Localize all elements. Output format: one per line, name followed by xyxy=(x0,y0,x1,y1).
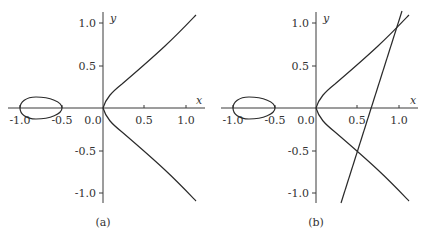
x-axis-label: x xyxy=(410,94,417,107)
x-tick-label: 0.5 xyxy=(135,114,153,127)
figure: -1.0 -0.5 0.0 0.5 1.0 1.0 0.5 -0.5 -1.0 … xyxy=(0,0,426,236)
cubic-branch-upper xyxy=(103,15,196,108)
x-axis-label: x xyxy=(196,94,203,107)
y-tick-label: 1.0 xyxy=(292,17,310,30)
panel-caption: (a) xyxy=(95,216,110,229)
y-tick-label: 0.5 xyxy=(292,60,310,73)
x-tick-label: 0.0 xyxy=(297,114,315,127)
y-axis-label: y xyxy=(322,12,330,25)
x-tick-label: -1.0 xyxy=(222,114,243,127)
cubic-branch-upper xyxy=(316,15,409,108)
y-axis-label: y xyxy=(109,12,117,25)
y-tick-label: 0.5 xyxy=(79,60,97,73)
panel-caption: (b) xyxy=(308,216,324,229)
y-tick-label: -0.5 xyxy=(288,145,309,158)
y-tick-label: 1.0 xyxy=(79,17,97,30)
y-tick-label: -1.0 xyxy=(288,187,309,200)
secant-line xyxy=(341,11,402,203)
x-tick-label: -1.0 xyxy=(9,114,30,127)
panel-a: -1.0 -0.5 0.0 0.5 1.0 1.0 0.5 -0.5 -1.0 … xyxy=(8,12,205,229)
x-tick-label: 1.0 xyxy=(390,114,408,127)
panel-b: -1.0 -0.5 0.0 0.5 1.0 1.0 0.5 -0.5 -1.0 … xyxy=(221,11,418,229)
y-tick-label: -0.5 xyxy=(75,145,96,158)
x-tick-label: 0.5 xyxy=(348,114,366,127)
x-tick-label: 1.0 xyxy=(177,114,195,127)
x-tick-label: 0.0 xyxy=(84,114,102,127)
y-tick-label: -1.0 xyxy=(75,187,96,200)
